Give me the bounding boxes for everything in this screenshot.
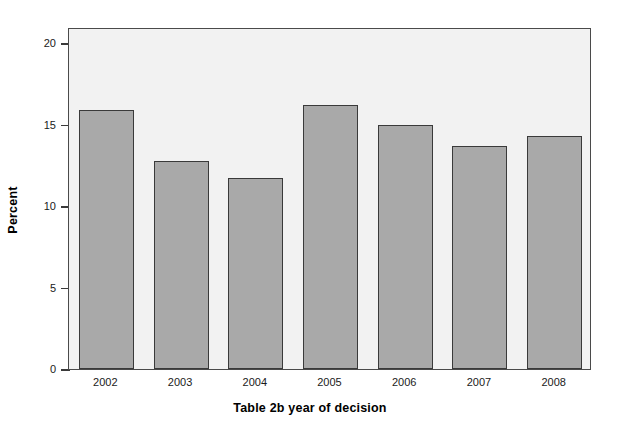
bar (154, 161, 209, 369)
bar (228, 178, 283, 369)
x-tick-label: 2005 (295, 376, 365, 388)
x-tick-label: 2004 (220, 376, 290, 388)
plot-frame (68, 28, 591, 370)
plot-area (69, 29, 590, 369)
y-tick-label: 5 (50, 283, 56, 294)
x-axis-title: Table 2b year of decision (0, 401, 620, 415)
bar (452, 146, 507, 369)
x-tick-label: 2006 (369, 376, 439, 388)
x-tick-label: 2007 (444, 376, 514, 388)
x-tick-label: 2008 (519, 376, 589, 388)
x-tick-label: 2002 (70, 376, 140, 388)
y-tick-label: 20 (44, 38, 56, 49)
bar (79, 110, 134, 369)
bar (378, 125, 433, 369)
y-tick-label: 0 (50, 364, 56, 375)
y-axis-title: Percent (6, 150, 20, 270)
bar (303, 105, 358, 369)
bar (527, 136, 582, 369)
y-tick-label: 10 (44, 201, 56, 212)
x-tick-label: 2003 (145, 376, 215, 388)
y-tick-label: 15 (44, 120, 56, 131)
bar-chart-figure: Percent 05101520 20022003200420052006200… (0, 0, 620, 430)
